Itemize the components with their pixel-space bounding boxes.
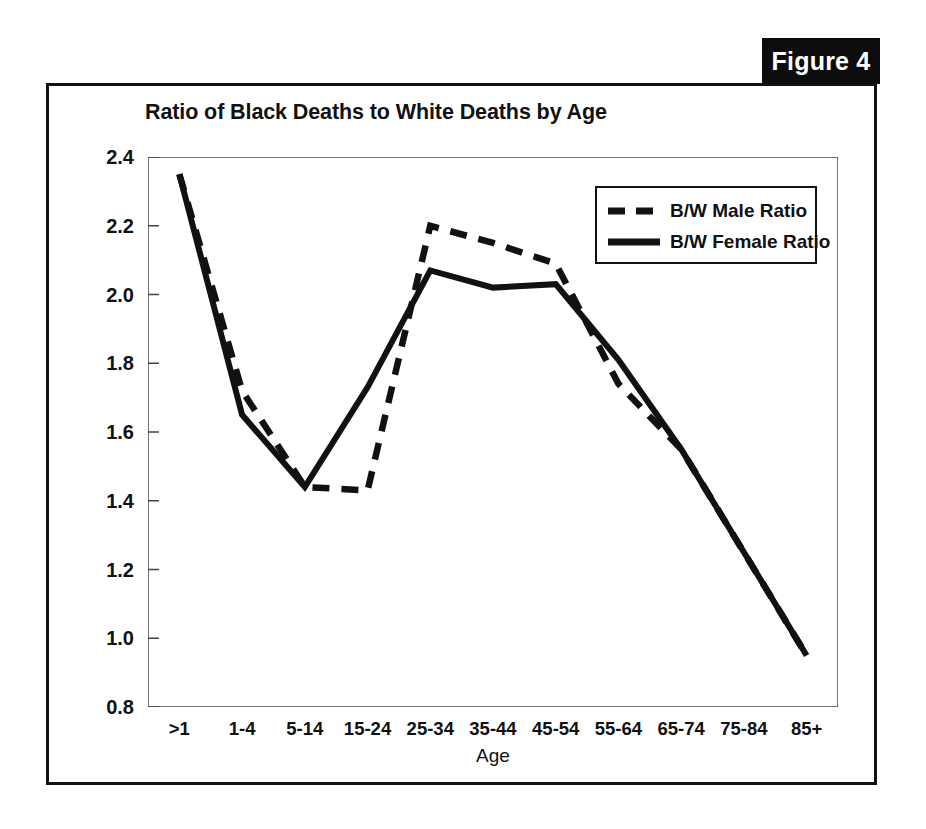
figure-number-badge: Figure 4 <box>762 38 880 84</box>
x-tick-label: 85+ <box>791 718 822 740</box>
chart-title: Ratio of Black Deaths to White Deaths by… <box>145 100 607 125</box>
legend-item-female: B/W Female Ratio <box>597 226 815 257</box>
y-tick-label: 2.2 <box>106 214 134 237</box>
y-tick-label: 1.6 <box>106 421 134 444</box>
x-tick-label: 45-54 <box>532 718 579 740</box>
x-tick-label: 1-4 <box>229 718 256 740</box>
x-tick-label: 55-64 <box>595 718 642 740</box>
chart-legend: B/W Male Ratio B/W Female Ratio <box>595 186 817 264</box>
legend-label-male: B/W Male Ratio <box>670 200 807 222</box>
x-tick-label: 65-74 <box>658 718 705 740</box>
y-tick-label: 2.4 <box>106 146 134 169</box>
y-tick-label: 1.8 <box>106 352 134 375</box>
x-tick-label: >1 <box>169 718 190 740</box>
y-tick-label: 1.2 <box>106 558 134 581</box>
legend-label-female: B/W Female Ratio <box>670 231 830 253</box>
y-axis-tick-labels: 2.42.22.01.81.61.41.21.00.8 <box>56 157 134 707</box>
x-tick-label: 75-84 <box>720 718 767 740</box>
x-tick-label: 25-34 <box>407 718 454 740</box>
y-tick-label: 1.0 <box>106 627 134 650</box>
y-tick-label: 1.4 <box>106 489 134 512</box>
x-axis-tick-labels: >11-45-1415-2425-3435-4445-5455-6465-747… <box>148 718 838 748</box>
x-axis-title: Age <box>148 745 838 767</box>
x-tick-label: 5-14 <box>286 718 323 740</box>
x-tick-label: 35-44 <box>469 718 516 740</box>
x-tick-label: 15-24 <box>344 718 391 740</box>
legend-solid-swatch-icon <box>606 233 662 251</box>
y-tick-label: 2.0 <box>106 283 134 306</box>
legend-item-male: B/W Male Ratio <box>597 195 815 226</box>
y-tick-label: 0.8 <box>106 696 134 719</box>
y-axis-ticks <box>148 157 159 707</box>
legend-dashed-swatch-icon <box>606 202 662 220</box>
